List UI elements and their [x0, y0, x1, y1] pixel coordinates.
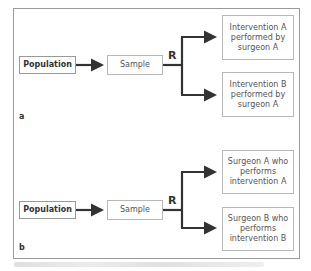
- randomization-label-a: R: [168, 49, 176, 62]
- sample-box-b: Sample: [107, 200, 163, 220]
- arm-top-box-a: Intervention A performed by surgeon A: [222, 15, 294, 60]
- population-box-b: Population: [19, 201, 76, 219]
- population-box-a: Population: [19, 56, 76, 74]
- randomization-label-b: R: [168, 194, 176, 207]
- panel-label-a: a: [19, 112, 24, 121]
- arm-top-box-b: Surgeon A who performs intervention A: [222, 150, 294, 194]
- blurred-caption: [14, 262, 264, 267]
- arm-bottom-box-a: Intervention B performed by surgeon A: [222, 72, 294, 117]
- panel-label-b: b: [19, 243, 25, 252]
- sample-box-a: Sample: [107, 55, 163, 75]
- arm-bottom-box-b: Surgeon B who performs intervention B: [222, 207, 294, 251]
